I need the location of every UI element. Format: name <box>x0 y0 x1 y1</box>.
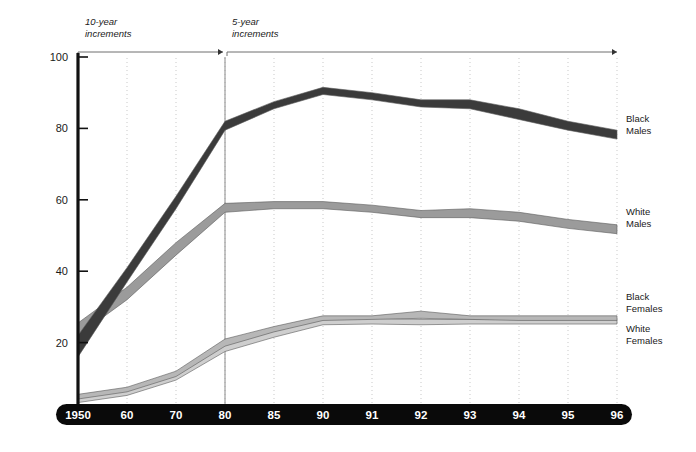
y-tick-label: 60 <box>56 194 68 206</box>
chart-svg: 020406080100 19506070808590919293949596 … <box>0 0 696 452</box>
series-band-white-females <box>78 318 617 402</box>
y-tick-label: 80 <box>56 122 68 134</box>
x-tick-label: 93 <box>464 409 477 421</box>
x-tick-label: 60 <box>121 409 134 421</box>
y-tick-label: 100 <box>50 51 68 63</box>
series-bands <box>78 87 617 402</box>
series-label-black-males-line2: Males <box>626 125 652 136</box>
y-tick-label: 20 <box>56 337 68 349</box>
x-tick-label: 1950 <box>65 409 91 421</box>
annotation-rules <box>78 49 617 56</box>
x-tick-label: 90 <box>317 409 330 421</box>
annotation-10yr-line1: 10-year <box>85 16 118 27</box>
chart-container: 020406080100 19506070808590919293949596 … <box>0 0 696 452</box>
y-tick-label: 40 <box>56 265 68 277</box>
x-tick-label: 91 <box>366 409 379 421</box>
series-label-black-males-line1: Black <box>626 113 649 124</box>
series-label-white-females-line2: Females <box>626 335 663 346</box>
annotation-5yr-line1: 5-year <box>232 16 260 27</box>
series-label-white-males-line1: White <box>626 206 650 217</box>
x-tick-label: 94 <box>513 409 526 421</box>
annotation-10yr-line2: increments <box>85 28 132 39</box>
x-tick-label: 80 <box>219 409 232 421</box>
x-tick-label: 85 <box>268 409 281 421</box>
annotation-5yr-line2: increments <box>232 28 279 39</box>
x-tick-label: 92 <box>415 409 428 421</box>
series-label-white-females-line1: White <box>626 323 650 334</box>
x-tick-label: 70 <box>170 409 183 421</box>
series-label-black-females-line2: Females <box>626 303 663 314</box>
x-tick-label: 95 <box>562 409 575 421</box>
x-axis-band <box>56 404 632 425</box>
y-axis-ticks: 020406080100 <box>50 51 88 420</box>
series-label-black-females-line1: Black <box>626 291 649 302</box>
series-label-white-males-line2: Males <box>626 218 652 229</box>
x-tick-label: 96 <box>611 409 624 421</box>
